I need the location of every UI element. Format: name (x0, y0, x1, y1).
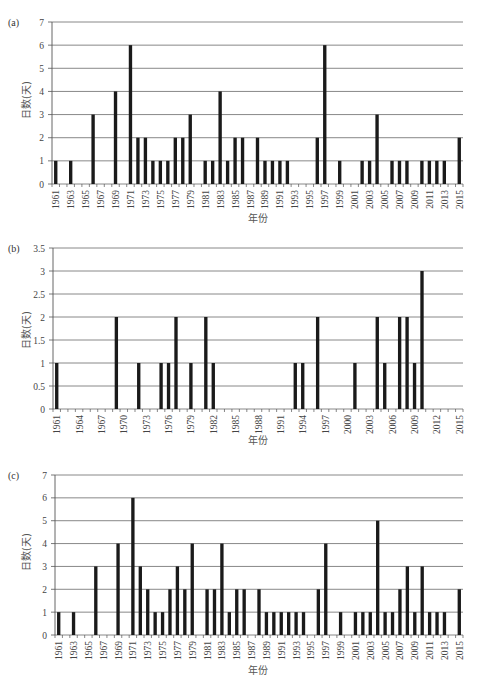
bar-2006 (390, 161, 393, 184)
x-tick-label: 1973 (141, 190, 151, 209)
bar-1972 (139, 566, 142, 635)
y-tick-label: 7 (39, 18, 44, 28)
y-tick-label: 3 (40, 267, 45, 277)
y-tick-label: 3 (39, 110, 44, 120)
bar-2001 (353, 363, 356, 409)
bar-1996 (317, 589, 320, 635)
bar-1981 (205, 589, 208, 635)
bar-1991 (280, 612, 283, 635)
bar-1971 (129, 45, 132, 184)
bar-1971 (131, 498, 134, 635)
x-tick-label: 1970 (119, 415, 129, 434)
x-tick-label: 1995 (305, 190, 315, 209)
x-tick-label: 1989 (262, 641, 272, 660)
x-tick-label: 1965 (84, 641, 94, 660)
y-tick-label: 0.5 (33, 382, 45, 392)
bar-2011 (428, 612, 431, 635)
y-tick-label: 2.5 (33, 290, 45, 300)
y-tick-label: 0 (39, 180, 44, 190)
x-tick-label: 1995 (306, 641, 316, 660)
y-axis-title: 日数(天) (20, 311, 32, 349)
bar-2002 (360, 161, 363, 184)
x-tick-label: 2000 (343, 415, 353, 434)
x-tick-label: 1967 (97, 415, 107, 434)
bar-1977 (174, 317, 177, 409)
x-tick-label: 1977 (171, 190, 181, 209)
bar-1976 (166, 161, 169, 184)
bar-1969 (114, 91, 117, 184)
bar-2004 (375, 115, 378, 184)
bar-1963 (69, 161, 72, 184)
x-tick-label: 1975 (156, 190, 166, 209)
x-tick-label: 2011 (425, 190, 435, 209)
x-tick-label: 2013 (440, 641, 450, 660)
x-tick-label: 1961 (51, 190, 61, 209)
bar-1983 (218, 91, 221, 184)
y-tick-label: 4 (39, 87, 44, 97)
x-tick-label: 2009 (410, 641, 420, 660)
bar-1961 (54, 161, 57, 184)
x-tick-label: 1993 (292, 641, 302, 660)
bar-1981 (204, 317, 207, 409)
y-tick-label: 2 (39, 133, 44, 143)
x-tick-label: 1991 (276, 415, 286, 434)
bar-1974 (151, 161, 154, 184)
x-tick-label: 1997 (321, 641, 331, 660)
bar-1985 (235, 589, 238, 635)
x-tick-label: 1963 (69, 641, 79, 660)
x-tick-label: 1999 (335, 190, 345, 209)
bar-2005 (383, 612, 386, 635)
bar-1966 (91, 115, 94, 184)
x-tick-label: 1987 (247, 641, 257, 660)
x-axis-title: 年份 (248, 664, 268, 676)
y-tick-label: 5 (39, 64, 44, 74)
x-tick-label: 1983 (217, 641, 227, 660)
bar-1977 (176, 566, 179, 635)
x-tick-label: 1967 (96, 190, 106, 209)
bar-1978 (181, 138, 184, 184)
bar-1999 (338, 161, 341, 184)
x-tick-label: 1991 (275, 190, 285, 209)
panel-label: (c) (8, 470, 19, 482)
x-tick-label: 1975 (158, 641, 168, 660)
y-tick-label: 2 (42, 585, 47, 595)
bar-1982 (213, 589, 216, 635)
bar-2004 (376, 521, 379, 635)
x-tick-label: 2015 (455, 190, 465, 209)
y-tick-label: 6 (42, 493, 47, 503)
bar-2010 (420, 161, 423, 184)
bar-2008 (405, 317, 408, 409)
x-tick-label: 2015 (455, 415, 465, 434)
y-axis-title: 日数(天) (20, 533, 32, 571)
bar-1979 (189, 115, 192, 184)
x-tick-label: 1989 (260, 190, 270, 209)
y-tick-label: 0 (40, 405, 45, 415)
bar-2012 (435, 612, 438, 635)
bar-1994 (301, 363, 304, 409)
x-tick-label: 2003 (365, 190, 375, 209)
x-tick-label: 2009 (410, 190, 420, 209)
bar-1988 (256, 138, 259, 184)
x-tick-label: 1979 (186, 415, 196, 434)
y-tick-label: 4 (42, 539, 47, 549)
x-tick-label: 1981 (201, 190, 211, 209)
x-tick-label: 1994 (298, 415, 308, 434)
bar-chart-b: 00.511.522.533.5196119641967197019731976… (0, 230, 481, 452)
y-tick-label: 1 (40, 359, 45, 369)
x-tick-label: 2007 (395, 190, 405, 209)
x-tick-label: 1964 (75, 415, 85, 434)
x-tick-label: 1973 (143, 641, 153, 660)
x-tick-label: 1997 (320, 190, 330, 209)
x-tick-label: 2015 (455, 641, 465, 660)
bar-2015 (458, 589, 461, 635)
bar-1990 (271, 161, 274, 184)
y-tick-label: 6 (39, 41, 44, 51)
bar-1984 (228, 612, 231, 635)
bar-1972 (137, 363, 140, 409)
x-tick-label: 1983 (216, 190, 226, 209)
bar-1993 (294, 612, 297, 635)
x-tick-label: 1997 (321, 415, 331, 434)
bar-1989 (263, 161, 266, 184)
y-tick-label: 0 (42, 631, 47, 641)
x-tick-label: 1979 (188, 641, 198, 660)
